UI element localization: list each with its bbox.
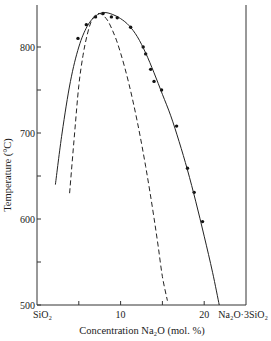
- data-point: [152, 80, 155, 83]
- y-tick-label: 800: [20, 42, 35, 53]
- ticks: [37, 47, 204, 305]
- data-point: [175, 124, 178, 127]
- x-tick-label: Na₂O·3SiO₂: [218, 309, 268, 320]
- axes: [37, 5, 246, 305]
- tick-labels: 500600700800SiO₂1020Na₂O·3SiO₂: [20, 42, 268, 320]
- x-tick-label: 20: [199, 309, 209, 320]
- solid-curve: [55, 13, 219, 305]
- data-point: [110, 15, 113, 18]
- y-tick-label: 700: [20, 128, 35, 139]
- x-tick-label: SiO₂: [33, 309, 52, 320]
- data-point: [76, 37, 79, 40]
- y-tick-label: 600: [20, 214, 35, 225]
- y-axis-title: Temperature (°C): [2, 138, 14, 212]
- phase-diagram-chart: 500600700800SiO₂1020Na₂O·3SiO₂ Concentra…: [0, 0, 271, 341]
- x-axis-title: Concentration Na₂O (mol. %): [79, 325, 205, 337]
- series: [55, 12, 219, 305]
- dashed-curve: [70, 13, 168, 300]
- x-tick-label: 10: [116, 309, 126, 320]
